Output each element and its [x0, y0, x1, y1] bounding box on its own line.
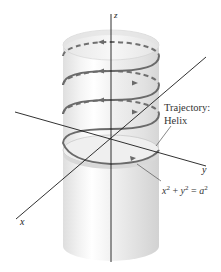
x-axis-label: x: [20, 216, 24, 227]
y-axis-label: y: [202, 164, 206, 175]
z-axis-label: z: [114, 10, 118, 20]
cylinder-equation-label: x2 + y2 = a2: [162, 184, 208, 196]
eq-equals: =: [189, 185, 200, 196]
trajectory-label-line1: Trajectory:: [164, 101, 210, 114]
diagram-canvas: [0, 0, 221, 272]
eq-plus: +: [170, 185, 181, 196]
helix-diagram: z x y Trajectory: Helix x2 + y2 = a2: [0, 0, 221, 272]
trajectory-label: Trajectory: Helix: [164, 101, 210, 127]
eq-a-exp: 2: [204, 184, 208, 192]
trajectory-label-line2: Helix: [164, 114, 210, 127]
